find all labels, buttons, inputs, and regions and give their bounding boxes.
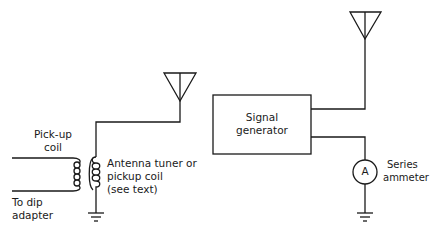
signal-generator-label: Signal generator [213, 111, 311, 137]
generator-ammeter-wire [311, 137, 365, 160]
antenna-feed-wire [96, 101, 180, 157]
dip-adapter-label: To dip adapter [12, 196, 53, 222]
pickup-coil-label: Pick-up coil [28, 128, 78, 154]
ammeter-symbol: A [355, 165, 375, 178]
series-ammeter-label: Series ammeter [383, 158, 429, 184]
ground-icon [88, 213, 104, 221]
antenna-icon [164, 73, 196, 101]
antenna-icon [350, 12, 381, 39]
generator-antenna-wire [311, 39, 365, 109]
tuner-coil-icon [89, 157, 100, 213]
pickup-coil-icon [12, 158, 80, 191]
ground-icon [357, 213, 373, 221]
antenna-tuner-label: Antenna tuner or pickup coil (see text) [107, 157, 197, 196]
